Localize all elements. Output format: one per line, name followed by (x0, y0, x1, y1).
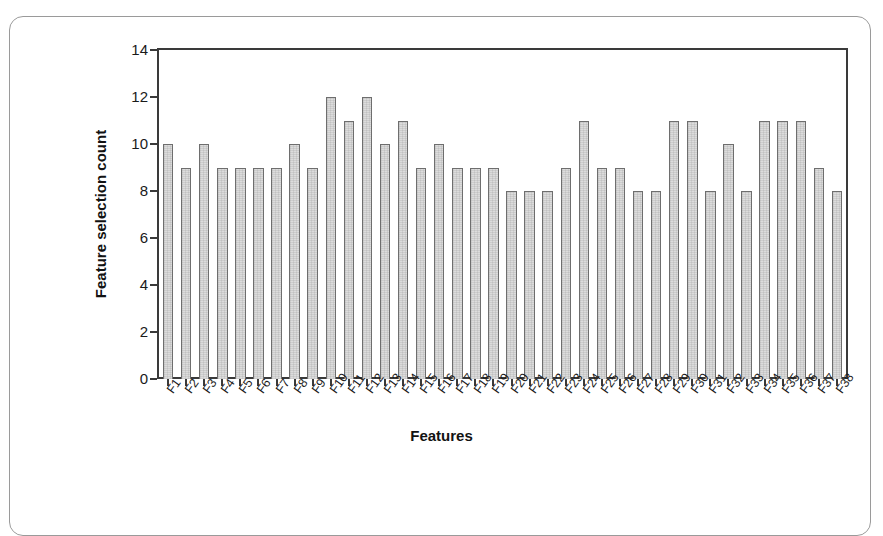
bar[interactable] (615, 168, 625, 380)
y-axis-tick (150, 378, 157, 380)
bar[interactable] (344, 121, 354, 380)
y-axis-tick (150, 49, 157, 51)
bar[interactable] (362, 97, 372, 379)
bar[interactable] (633, 191, 643, 379)
y-axis-tick (150, 237, 157, 239)
bar[interactable] (723, 144, 733, 379)
bar[interactable] (796, 121, 806, 380)
bar[interactable] (217, 168, 227, 380)
y-axis-tick-label: 0 (108, 370, 148, 387)
y-axis-tick (150, 96, 157, 98)
bar[interactable] (470, 168, 480, 380)
bar[interactable] (434, 144, 444, 379)
y-axis-tick (150, 284, 157, 286)
bar[interactable] (488, 168, 498, 380)
bar[interactable] (759, 121, 769, 380)
bar[interactable] (524, 191, 534, 379)
bar[interactable] (777, 121, 787, 380)
bar[interactable] (416, 168, 426, 380)
y-axis-tick-label: 2 (108, 323, 148, 340)
bar[interactable] (199, 144, 209, 379)
bar[interactable] (163, 144, 173, 379)
bar[interactable] (181, 168, 191, 380)
bar[interactable] (398, 121, 408, 380)
bar[interactable] (579, 121, 589, 380)
y-axis-title: Feature selection count (92, 129, 109, 297)
bar[interactable] (326, 97, 336, 379)
bar[interactable] (307, 168, 317, 380)
y-axis-tick-label: 12 (108, 88, 148, 105)
bar[interactable] (741, 191, 751, 379)
bar[interactable] (452, 168, 462, 380)
bar[interactable] (669, 121, 679, 380)
bar[interactable] (832, 191, 842, 379)
y-axis-tick-label: 8 (108, 182, 148, 199)
y-axis-tick (150, 190, 157, 192)
y-axis-tick-label: 4 (108, 276, 148, 293)
bar[interactable] (687, 121, 697, 380)
bar[interactable] (542, 191, 552, 379)
y-axis-tick-label: 14 (108, 41, 148, 58)
y-axis-tick-label: 10 (108, 135, 148, 152)
bar[interactable] (235, 168, 245, 380)
bar[interactable] (289, 144, 299, 379)
y-axis-tick-label: 6 (108, 229, 148, 246)
y-axis-tick (150, 331, 157, 333)
bar[interactable] (506, 191, 516, 379)
bar[interactable] (705, 191, 715, 379)
bar[interactable] (380, 144, 390, 379)
bar[interactable] (253, 168, 263, 380)
bar[interactable] (814, 168, 824, 380)
x-axis-title: Features (0, 427, 883, 444)
bar[interactable] (561, 168, 571, 380)
bar[interactable] (597, 168, 607, 380)
y-axis-tick (150, 143, 157, 145)
bar[interactable] (271, 168, 281, 380)
bars-container (159, 50, 846, 379)
bar[interactable] (651, 191, 661, 379)
